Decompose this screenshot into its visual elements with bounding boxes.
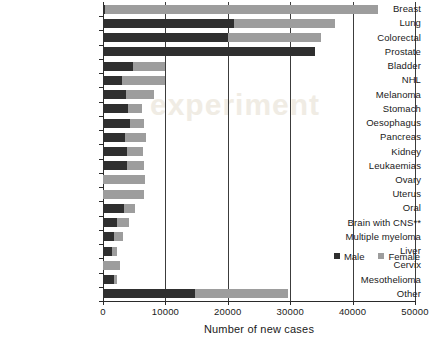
- x-tick-label: 50000: [401, 306, 428, 317]
- bar-segment-female: [126, 90, 154, 99]
- x-tick-label: 30000: [276, 306, 303, 317]
- y-tick-mark: [99, 16, 103, 17]
- bar-row: [0, 76, 429, 85]
- y-tick-mark: [99, 159, 103, 160]
- x-tick-label: 10000: [152, 306, 179, 317]
- x-tick-label: 40000: [339, 306, 366, 317]
- bar-row: [0, 90, 429, 99]
- bar-segment-female: [125, 133, 146, 142]
- bar-segment-female: [103, 190, 144, 199]
- bar-row: [0, 104, 429, 113]
- x-tick-mark: [290, 301, 291, 305]
- bar-segment-male: [103, 218, 117, 227]
- y-tick-mark: [99, 201, 103, 202]
- x-axis-line: [103, 301, 416, 302]
- bar-row: [0, 147, 429, 156]
- bar-segment-female: [133, 62, 165, 71]
- y-tick-mark: [99, 87, 103, 88]
- bar-row: [0, 204, 429, 213]
- bar-row: [0, 261, 429, 270]
- bar-segment-female: [130, 119, 144, 128]
- bar-segment-female: [114, 232, 123, 241]
- y-tick-mark: [99, 287, 103, 288]
- bar-segment-male: [103, 19, 234, 28]
- x-tick-label: 0: [100, 306, 105, 317]
- bar-segment-male: [103, 76, 122, 85]
- bar-segment-male: [103, 275, 114, 284]
- bar-segment-male: [103, 161, 127, 170]
- y-tick-mark: [99, 301, 103, 302]
- bar-segment-female: [103, 175, 145, 184]
- bar-row: [0, 175, 429, 184]
- y-tick-mark: [99, 230, 103, 231]
- bar-segment-female: [103, 261, 120, 270]
- bar-segment-male: [103, 47, 315, 56]
- x-tick-mark: [353, 301, 354, 305]
- y-tick-mark: [99, 216, 103, 217]
- bar-segment-male: [103, 204, 124, 213]
- bar-segment-female: [114, 275, 116, 284]
- bar-segment-male: [103, 147, 127, 156]
- y-tick-mark: [99, 244, 103, 245]
- bar-segment-female: [122, 76, 165, 85]
- y-tick-mark: [99, 59, 103, 60]
- bar-row: [0, 5, 429, 14]
- bar-row: [0, 119, 429, 128]
- bar-segment-male: [103, 232, 114, 241]
- y-tick-mark: [99, 144, 103, 145]
- y-tick-mark: [99, 45, 103, 46]
- bar-segment-female: [105, 5, 378, 14]
- bar-segment-female: [128, 104, 142, 113]
- bar-row: [0, 161, 429, 170]
- bar-segment-male: [103, 119, 130, 128]
- y-tick-mark: [99, 73, 103, 74]
- bar-row: [0, 247, 429, 256]
- bar-segment-female: [117, 218, 128, 227]
- y-tick-mark: [99, 173, 103, 174]
- x-tick-mark: [103, 301, 104, 305]
- bar-segment-female: [228, 33, 322, 42]
- bar-row: [0, 190, 429, 199]
- bar-row: [0, 133, 429, 142]
- bar-segment-male: [103, 62, 133, 71]
- bar-row: [0, 19, 429, 28]
- bar-segment-female: [195, 289, 288, 298]
- y-tick-mark: [99, 30, 103, 31]
- x-axis-label: Number of new cases: [103, 323, 415, 335]
- bar-segment-female: [127, 147, 143, 156]
- bar-row: [0, 218, 429, 227]
- bar-row: [0, 232, 429, 241]
- bar-row: [0, 33, 429, 42]
- y-tick-mark: [99, 273, 103, 274]
- bar-segment-male: [103, 289, 195, 298]
- bar-segment-male: [103, 90, 126, 99]
- bar-row: [0, 47, 429, 56]
- cancer-incidence-bar-chart: experiment 01000020000300004000050000 Nu…: [0, 0, 429, 350]
- x-tick-mark: [228, 301, 229, 305]
- bar-segment-male: [103, 247, 112, 256]
- y-tick-mark: [99, 102, 103, 103]
- x-tick-label: 20000: [214, 306, 241, 317]
- bar-row: [0, 289, 429, 298]
- bar-row: [0, 275, 429, 284]
- x-tick-mark: [415, 301, 416, 305]
- y-tick-mark: [99, 187, 103, 188]
- bar-segment-female: [112, 247, 118, 256]
- bar-row: [0, 62, 429, 71]
- bar-segment-male: [103, 133, 125, 142]
- x-tick-mark: [165, 301, 166, 305]
- y-tick-mark: [99, 130, 103, 131]
- bar-segment-female: [234, 19, 335, 28]
- y-tick-mark: [99, 258, 103, 259]
- bar-segment-male: [103, 33, 228, 42]
- bar-segment-female: [127, 161, 144, 170]
- bar-segment-male: [103, 104, 128, 113]
- y-tick-mark: [99, 116, 103, 117]
- bar-segment-female: [124, 204, 135, 213]
